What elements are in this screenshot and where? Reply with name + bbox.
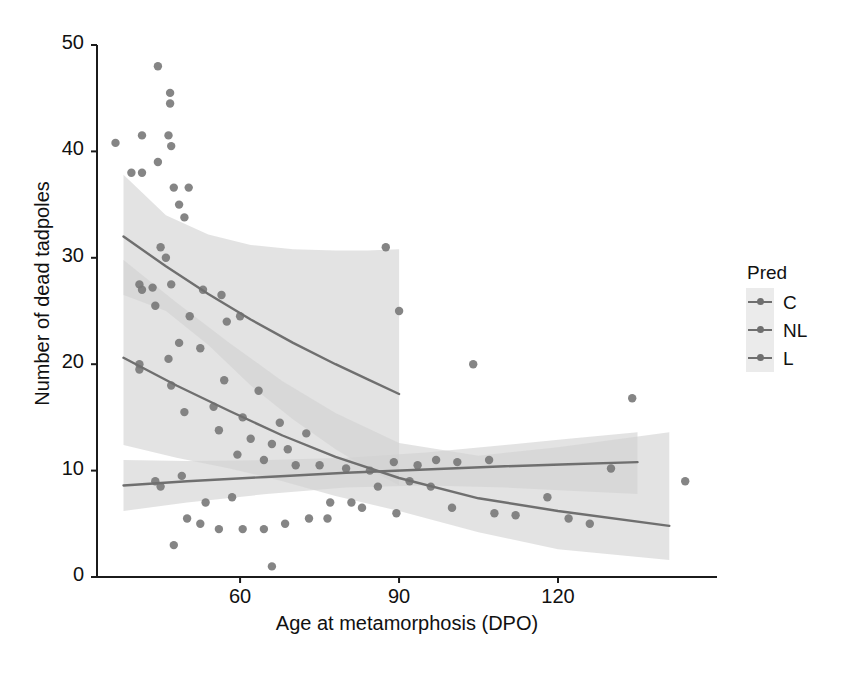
legend-item-l[interactable]: L — [746, 344, 841, 372]
x-axis-tick-labels: 6090120 — [0, 585, 841, 615]
y-tick-label: 50 — [40, 31, 84, 54]
y-tick-label: 40 — [40, 137, 84, 160]
data-point — [111, 139, 119, 147]
data-point — [178, 472, 186, 480]
data-point — [127, 169, 135, 177]
data-point — [183, 514, 191, 522]
legend-item-nl[interactable]: NL — [746, 316, 841, 344]
legend-label: NL — [783, 321, 807, 340]
data-point — [382, 243, 390, 251]
scatter-plot-figure: Number of dead tadpoles Age at metamorph… — [0, 0, 841, 678]
data-point — [201, 498, 209, 506]
x-axis-title: Age at metamorphosis (DPO) — [97, 612, 717, 635]
data-point — [543, 493, 551, 501]
x-tick-label: 60 — [205, 585, 275, 608]
data-point — [413, 461, 421, 469]
legend-point-glyph — [757, 326, 764, 333]
data-point — [326, 498, 334, 506]
data-point — [167, 142, 175, 150]
data-point — [164, 355, 172, 363]
data-point — [138, 131, 146, 139]
data-point — [374, 482, 382, 490]
data-point — [154, 158, 162, 166]
y-tick-label: 10 — [40, 457, 84, 480]
legend-title: Pred — [747, 262, 841, 284]
data-point — [315, 461, 323, 469]
data-point — [281, 520, 289, 528]
data-point — [392, 509, 400, 517]
legend-point-glyph — [757, 354, 764, 361]
data-point — [217, 291, 225, 299]
data-point — [268, 562, 276, 570]
data-point — [681, 477, 689, 485]
data-point — [390, 458, 398, 466]
data-point — [239, 525, 247, 533]
legend-item-c[interactable]: C — [746, 288, 841, 316]
data-point — [284, 445, 292, 453]
x-tick-label: 90 — [364, 585, 434, 608]
data-point — [170, 183, 178, 191]
data-point — [196, 520, 204, 528]
data-point — [175, 339, 183, 347]
data-point — [166, 89, 174, 97]
data-point — [156, 243, 164, 251]
legend-point-glyph — [757, 298, 764, 305]
data-point — [215, 525, 223, 533]
data-point — [138, 286, 146, 294]
data-point — [490, 509, 498, 517]
data-point — [138, 169, 146, 177]
data-point — [323, 514, 331, 522]
data-point — [628, 394, 636, 402]
data-point — [166, 99, 174, 107]
x-tick-label: 120 — [523, 585, 593, 608]
data-point — [151, 302, 159, 310]
data-point — [511, 511, 519, 519]
data-point — [233, 450, 241, 458]
data-point — [254, 387, 262, 395]
data-point — [180, 213, 188, 221]
data-point — [180, 408, 188, 416]
data-point — [148, 283, 156, 291]
legend-entries: CNLL — [746, 288, 841, 372]
plot-canvas — [0, 0, 841, 678]
data-point — [260, 525, 268, 533]
data-point — [164, 131, 172, 139]
data-point — [186, 312, 194, 320]
y-tick-label: 0 — [40, 563, 84, 586]
data-point — [305, 514, 313, 522]
legend-key-swatch — [746, 316, 774, 344]
data-point — [268, 440, 276, 448]
data-point — [432, 456, 440, 464]
data-point — [453, 458, 461, 466]
data-point — [154, 62, 162, 70]
legend: Pred CNLL — [746, 262, 841, 372]
data-point — [215, 426, 223, 434]
data-point — [175, 200, 183, 208]
data-point — [170, 541, 178, 549]
y-axis-tick-labels: 01020304050 — [20, 0, 84, 678]
data-point — [247, 435, 255, 443]
data-point — [162, 254, 170, 262]
legend-label: C — [783, 293, 797, 312]
data-point — [469, 360, 477, 368]
data-point — [220, 376, 228, 384]
data-point — [167, 280, 175, 288]
data-point — [260, 456, 268, 464]
data-point — [607, 464, 615, 472]
data-point — [185, 183, 193, 191]
legend-key-swatch — [746, 344, 774, 372]
data-point — [395, 307, 403, 315]
data-point — [196, 344, 204, 352]
data-point — [276, 419, 284, 427]
data-point — [564, 514, 572, 522]
data-point — [485, 456, 493, 464]
data-point — [302, 429, 310, 437]
y-tick-label: 30 — [40, 244, 84, 267]
data-point — [358, 504, 366, 512]
data-point — [228, 493, 236, 501]
legend-key-swatch — [746, 288, 774, 316]
data-point — [223, 317, 231, 325]
data-point — [586, 520, 594, 528]
data-point — [347, 498, 355, 506]
y-tick-label: 20 — [40, 350, 84, 373]
